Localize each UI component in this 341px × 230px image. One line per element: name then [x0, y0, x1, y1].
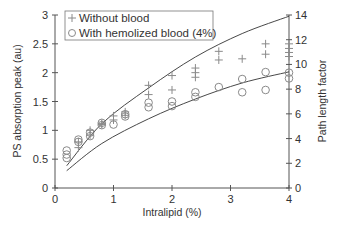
- y2-tick-label: 12: [295, 34, 307, 46]
- point-without-blood: [145, 81, 153, 89]
- point-without-blood: [262, 40, 270, 48]
- point-without-blood: [168, 72, 176, 80]
- axes: [52, 15, 292, 191]
- y2-axis-title: Path length factor: [316, 59, 328, 142]
- x-tick-label: 4: [286, 193, 292, 205]
- y2-tick-label: 8: [295, 83, 301, 95]
- point-without-blood: [191, 73, 199, 81]
- x-axis-title: Intralipid (%): [143, 206, 202, 218]
- point-with-blood: [238, 75, 246, 83]
- y2-tick-label: 10: [295, 58, 307, 70]
- y-tick-label: 1.5: [33, 96, 48, 108]
- legend-label-with-blood: With hemolized blood (4%): [79, 27, 217, 39]
- point-without-blood: [145, 91, 153, 99]
- y2-tick-label: 14: [295, 9, 307, 21]
- point-without-blood: [262, 50, 270, 58]
- point-with-blood: [262, 68, 270, 76]
- y-tick-label: 2.5: [33, 38, 48, 50]
- legend: Without blood With hemolized blood (4%): [65, 11, 217, 40]
- x-tick-label: 0: [52, 193, 58, 205]
- y2-tick-label: 2: [295, 157, 301, 169]
- point-with-blood: [238, 88, 246, 96]
- point-without-blood: [168, 86, 176, 94]
- point-with-blood: [145, 103, 153, 111]
- y-tick-label: 0.5: [33, 153, 48, 165]
- chart: 0123400.511.522.5302468101214 Intralipid…: [0, 0, 341, 230]
- y-axis-title: PS absorption peak (au): [11, 44, 23, 157]
- point-without-blood: [238, 55, 246, 63]
- point-without-blood: [215, 47, 223, 55]
- y-tick-label: 2: [42, 67, 48, 79]
- y-tick-label: 3: [42, 9, 48, 21]
- point-with-blood: [192, 93, 200, 101]
- x-tick-label: 3: [227, 193, 233, 205]
- y-tick-label: 1: [42, 124, 48, 136]
- legend-label-without-blood: Without blood: [79, 12, 149, 24]
- data-points: [63, 40, 293, 162]
- point-with-blood: [262, 86, 270, 94]
- y-tick-label: 0: [42, 182, 48, 194]
- x-tick-label: 1: [110, 193, 116, 205]
- y2-tick-label: 4: [295, 133, 301, 145]
- point-without-blood: [285, 53, 293, 61]
- point-without-blood: [215, 56, 223, 64]
- y2-tick-label: 0: [295, 182, 301, 194]
- x-tick-label: 2: [169, 193, 175, 205]
- point-with-blood: [215, 83, 223, 91]
- y2-tick-label: 6: [295, 108, 301, 120]
